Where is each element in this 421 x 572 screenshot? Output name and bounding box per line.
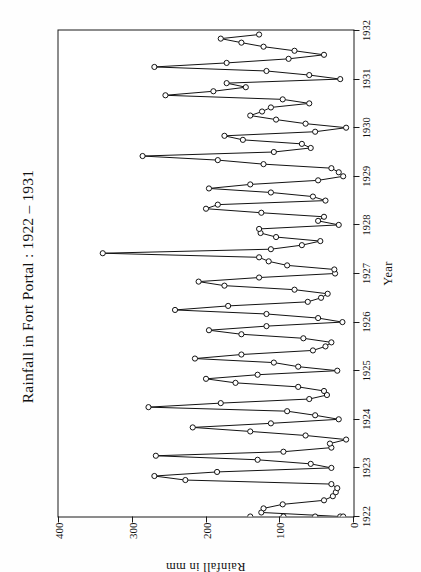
data-point-marker (263, 311, 268, 316)
data-point-marker (280, 449, 285, 454)
data-point-marker (268, 246, 273, 251)
data-point-marker (339, 319, 344, 324)
data-point-marker (218, 400, 223, 405)
data-point-marker (196, 279, 201, 284)
rainfall-line-series (58, 30, 353, 516)
data-point-marker (308, 461, 313, 466)
data-point-marker (151, 64, 156, 69)
y-tick-label: 400 (52, 516, 64, 539)
data-point-marker (100, 250, 105, 255)
data-point-marker (162, 92, 167, 97)
x-axis-label: Year (380, 29, 395, 517)
x-tick-label: 1926 (353, 311, 371, 332)
data-point-marker (268, 104, 273, 109)
data-point-marker (256, 274, 261, 279)
data-point-marker (256, 31, 261, 36)
data-point-marker (225, 303, 230, 308)
chart-page: Rainfall in Fort Portal : 1922 – 1931 Ra… (0, 0, 421, 572)
data-point-marker (218, 36, 223, 41)
data-point-marker (306, 72, 311, 77)
data-point-marker (221, 133, 226, 138)
data-point-marker (312, 129, 317, 134)
data-point-marker (302, 121, 307, 126)
data-point-marker (260, 505, 265, 510)
data-point-marker (300, 335, 305, 340)
data-point-marker (255, 372, 260, 377)
x-tick-label: 1924 (353, 408, 371, 429)
data-point-marker (260, 161, 265, 166)
data-point-marker (312, 513, 317, 516)
data-point-marker (145, 404, 150, 409)
data-point-marker (325, 291, 330, 296)
x-tick-label: 1923 (353, 457, 371, 478)
data-point-marker (263, 323, 268, 328)
y-tick-label: 200 (200, 516, 212, 539)
data-point-marker (238, 331, 243, 336)
data-point-marker (203, 376, 208, 381)
data-point-marker (321, 388, 326, 393)
data-point-marker (263, 68, 268, 73)
data-point-marker (334, 485, 339, 490)
data-point-marker (321, 52, 326, 57)
x-tick-label: 1928 (353, 214, 371, 235)
data-point-marker (284, 262, 289, 267)
data-point-marker (295, 384, 300, 389)
data-point-marker (284, 408, 289, 413)
y-tick-label: 100 (273, 516, 285, 539)
plot-area: 0100200300400192219231924192519261927192… (57, 29, 354, 517)
data-point-marker (266, 258, 271, 263)
data-point-marker (238, 40, 243, 45)
x-tick-label: 1929 (353, 165, 371, 186)
data-point-marker (247, 112, 252, 117)
data-point-marker (331, 266, 336, 271)
data-point-marker (224, 60, 229, 65)
data-point-marker (190, 424, 195, 429)
x-tick-label: 1931 (353, 68, 371, 89)
data-point-marker (280, 501, 285, 506)
data-point-marker (256, 254, 261, 259)
data-point-marker (247, 513, 252, 516)
data-point-marker (336, 169, 341, 174)
data-point-marker (310, 193, 315, 198)
data-point-marker (317, 238, 322, 243)
data-point-marker (318, 295, 323, 300)
data-point-marker (291, 287, 296, 292)
data-point-marker (343, 436, 348, 441)
data-point-marker (310, 347, 315, 352)
x-tick-label: 1925 (353, 360, 371, 381)
data-point-marker (206, 327, 211, 332)
data-point-marker (182, 477, 187, 482)
data-point-marker (306, 396, 311, 401)
data-point-marker (258, 210, 263, 215)
data-point-marker (259, 108, 264, 113)
data-point-marker (321, 214, 326, 219)
data-point-marker (312, 412, 317, 417)
data-point-marker (286, 56, 291, 61)
data-point-marker (315, 218, 320, 223)
data-point-marker (315, 315, 320, 320)
data-point-marker (206, 185, 211, 190)
data-point-marker (271, 359, 276, 364)
data-point-marker (273, 116, 278, 121)
data-point-marker (215, 157, 220, 162)
data-point-marker (315, 177, 320, 182)
data-point-marker (268, 189, 273, 194)
data-point-marker (328, 481, 333, 486)
data-point-marker (203, 206, 208, 211)
figure: Rainfall in Fort Portal : 1922 – 1931 Ra… (0, 0, 421, 572)
x-tick-label: 1922 (353, 506, 371, 527)
data-point-marker (306, 100, 311, 105)
y-tick-label: 300 (126, 516, 138, 539)
data-point-marker (308, 145, 313, 150)
rotated-figure-wrapper: Rainfall in Fort Portal : 1922 – 1931 Ra… (0, 0, 421, 572)
data-point-marker (322, 343, 327, 348)
data-point-marker (260, 44, 265, 49)
data-point-marker (172, 307, 177, 312)
x-tick-label: 1930 (353, 117, 371, 138)
y-axis-label: Rainfall in mm (57, 556, 354, 572)
data-point-marker (232, 380, 237, 385)
data-point-marker (273, 234, 278, 239)
data-point-marker (268, 420, 273, 425)
data-point-marker (299, 242, 304, 247)
data-point-marker (291, 48, 296, 53)
